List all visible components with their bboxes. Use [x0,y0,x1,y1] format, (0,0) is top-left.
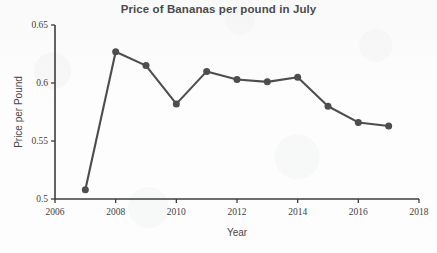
y-axis-title: Price per Pound [13,76,24,148]
data-point-marker [112,48,119,55]
data-point-marker [325,103,332,110]
data-point-marker [385,122,392,129]
x-tick-label: 2016 [349,207,368,217]
data-point-marker [234,76,241,83]
data-point-marker [143,62,150,69]
y-tick-label: 0.6 [36,78,48,88]
chart-figure: Price of Bananas per pound in July 0.50.… [0,0,437,253]
y-tick-label: 0.5 [36,194,48,204]
data-point-marker [173,100,180,107]
line-chart-plot: 0.50.550.60.6520062008201020122014201620… [0,0,437,253]
series-line-price [85,52,388,190]
x-tick-label: 2008 [106,207,125,217]
x-tick-label: 2006 [46,207,65,217]
y-tick-label: 0.65 [31,20,48,30]
y-tick-label: 0.55 [31,136,48,146]
x-tick-label: 2010 [167,207,186,217]
data-point-marker [355,119,362,126]
x-axis-title: Year [227,227,248,238]
data-point-marker [203,68,210,75]
data-point-marker [264,78,271,85]
x-tick-label: 2012 [228,207,247,217]
x-tick-label: 2018 [410,207,429,217]
data-point-marker [82,186,89,193]
data-point-marker [294,74,301,81]
x-tick-label: 2014 [288,207,307,217]
